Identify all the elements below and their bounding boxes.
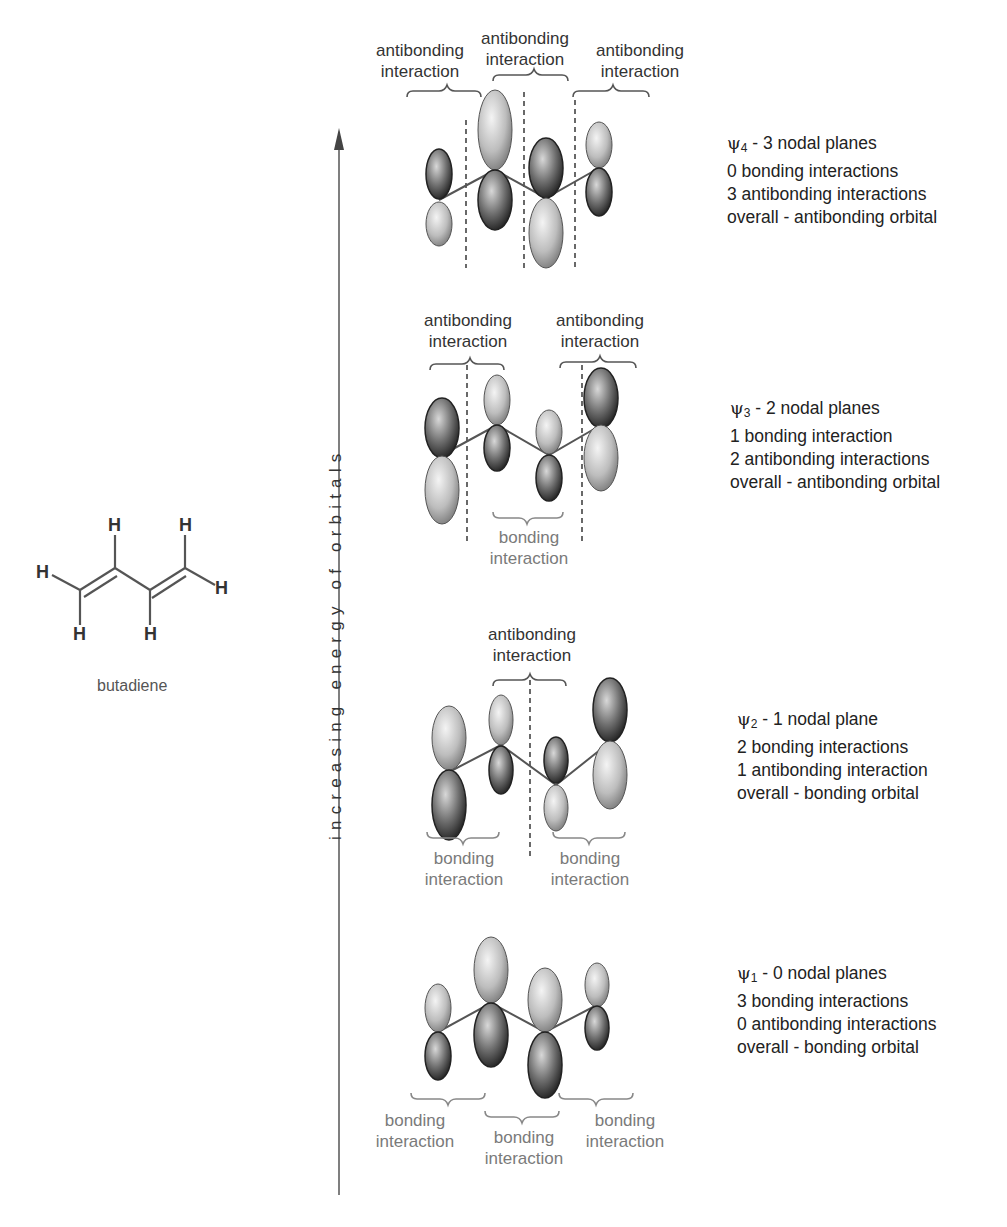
atom-h2: H [73, 624, 86, 645]
atom-h5: H [179, 515, 192, 536]
butadiene-structure [52, 535, 215, 625]
psi4-top-label-1: antibondinginteraction [365, 40, 475, 82]
atom-h6: H [215, 578, 228, 599]
psi2-bottom-label-1: bondinginteraction [409, 848, 519, 890]
psi1-bottom-label-1: bondinginteraction [360, 1110, 470, 1152]
psi2-description: ψ2 - 1 nodal plane 2 bonding interaction… [737, 708, 928, 805]
molecule-caption: butadiene [97, 677, 167, 695]
butadiene-mo-diagram: H H H H H H butadiene increasing energy … [0, 0, 1007, 1227]
psi4-description: ψ4 - 3 nodal planes 0 bonding interactio… [727, 132, 937, 229]
psi3-description: ψ3 - 2 nodal planes 1 bonding interactio… [730, 397, 940, 494]
orbital-psi2 [427, 674, 627, 858]
orbital-psi4 [407, 69, 649, 270]
psi2-top-label-1: antibondinginteraction [477, 624, 587, 666]
psi2-bottom-label-2: bondinginteraction [535, 848, 645, 890]
atom-h4: H [144, 624, 157, 645]
psi4-top-label-2: antibondinginteraction [470, 28, 580, 70]
atom-h1: H [36, 562, 49, 583]
orbital-psi3 [425, 356, 636, 545]
psi1-description: ψ1 - 0 nodal planes 3 bonding interactio… [737, 962, 936, 1059]
psi3-bottom-label-1: bondinginteraction [474, 527, 584, 569]
atom-h3: H [108, 515, 121, 536]
psi3-title: ψ3 - 2 nodal planes [730, 397, 940, 425]
psi1-bottom-label-3: bondinginteraction [570, 1110, 680, 1152]
energy-axis-label: increasing energy of orbitals [326, 448, 346, 840]
orbital-psi1 [411, 937, 633, 1123]
psi3-top-label-2: antibondinginteraction [545, 310, 655, 352]
psi3-top-label-1: antibondinginteraction [413, 310, 523, 352]
psi2-title: ψ2 - 1 nodal plane [737, 708, 928, 736]
psi4-top-label-3: antibondinginteraction [585, 40, 695, 82]
psi1-bottom-label-2: bondinginteraction [469, 1127, 579, 1169]
psi4-title: ψ4 - 3 nodal planes [727, 132, 937, 160]
psi1-title: ψ1 - 0 nodal planes [737, 962, 936, 990]
